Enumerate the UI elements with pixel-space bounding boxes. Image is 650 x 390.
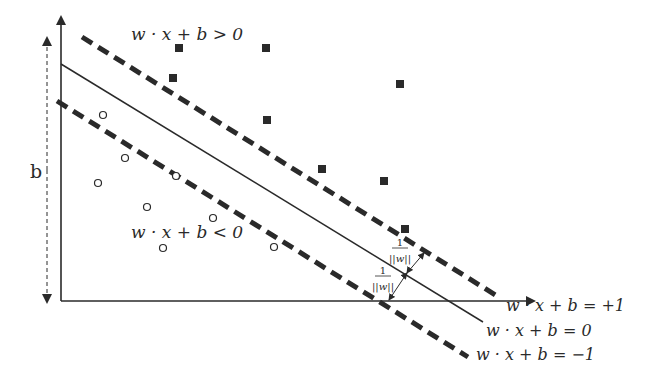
negative-point-circle	[173, 173, 180, 180]
positive-point-square	[175, 44, 183, 52]
positive-point-square	[262, 44, 270, 52]
negative-point-circle	[100, 112, 107, 119]
hyperplane-line	[61, 64, 483, 322]
negative-point-circle	[210, 215, 217, 222]
margin-numerator-lower: 1	[380, 265, 386, 276]
negative-region-label: w · x + b < 0	[131, 222, 243, 242]
negative-point-circle	[144, 204, 151, 211]
margin-denominator-upper: ||w||	[389, 253, 411, 265]
svm-diagram: b 1 ||w|| 1 ||w|| w · x	[0, 0, 650, 390]
negative-point-circle	[160, 245, 167, 252]
bias-arrow: b	[30, 38, 47, 302]
negative-point-circle	[122, 155, 129, 162]
positive-point-square	[169, 74, 177, 82]
positive-point-square	[396, 80, 404, 88]
decision-lines	[57, 37, 497, 357]
svm-diagram-canvas: b 1 ||w|| 1 ||w|| w · x	[0, 0, 650, 390]
negative-margin-equation: w · x + b = −1	[476, 345, 595, 364]
bias-label: b	[30, 160, 42, 182]
positive-point-square	[318, 165, 326, 173]
axes	[61, 17, 534, 301]
positive-margin-equation: w · x + b = +1	[506, 296, 625, 315]
positive-margin-line	[82, 37, 497, 296]
positive-class-points	[169, 44, 409, 233]
positive-point-square	[380, 177, 388, 185]
margin-denominator-lower: ||w||	[372, 281, 394, 293]
positive-region-label: w · x + b > 0	[131, 24, 243, 44]
positive-point-square	[263, 116, 271, 124]
margin-fraction-lower: 1 ||w||	[372, 265, 394, 293]
margin-numerator-upper: 1	[397, 237, 403, 248]
negative-point-circle	[271, 244, 278, 251]
positive-point-square	[401, 225, 409, 233]
margin-annotations: 1 ||w|| 1 ||w||	[372, 237, 424, 300]
hyperplane-equation: w · x + b = 0	[486, 321, 592, 340]
negative-point-circle	[95, 180, 102, 187]
